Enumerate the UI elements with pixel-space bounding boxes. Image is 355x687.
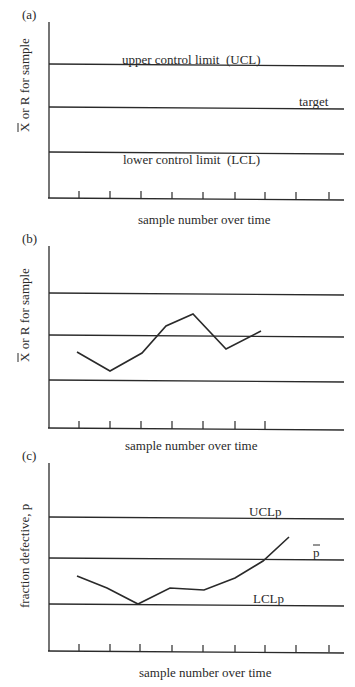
x-ticks bbox=[79, 644, 329, 652]
panel-a: (a) upper control limit (UCL) target low… bbox=[17, 7, 344, 227]
uclp-label: UCLp bbox=[249, 504, 282, 519]
lcl-label: lower control limit (LCL) bbox=[123, 152, 260, 167]
ucl-label: upper control limit (UCL) bbox=[122, 52, 261, 67]
panel-c-tag: (c) bbox=[22, 448, 36, 463]
lclp-line bbox=[49, 604, 344, 606]
y-axis-label: X or R for sample bbox=[17, 38, 32, 132]
pbar-label: p bbox=[313, 545, 320, 560]
y-axis-label: X or R for sample bbox=[17, 268, 32, 362]
lcl-line bbox=[49, 380, 344, 382]
ucl-line bbox=[49, 293, 344, 295]
x-axis-label: sample number over time bbox=[138, 212, 271, 227]
x-axis bbox=[48, 651, 344, 653]
x-ticks bbox=[79, 191, 329, 199]
lclp-label: LCLp bbox=[253, 591, 284, 606]
panel-a-tag: (a) bbox=[22, 7, 36, 22]
sample-series-line bbox=[77, 314, 261, 371]
y-axis-label: fraction defective, p bbox=[17, 504, 32, 608]
pbar-line bbox=[49, 558, 344, 560]
x-axis-label: sample number over time bbox=[139, 665, 272, 680]
svg-text:X or R for sample: X or R for sample bbox=[17, 268, 32, 362]
svg-text:fraction defective, p: fraction defective, p bbox=[17, 504, 32, 608]
panel-b-tag: (b) bbox=[22, 231, 37, 246]
target-label: target bbox=[299, 94, 329, 109]
svg-text:X or R for sample: X or R for sample bbox=[17, 38, 32, 132]
x-axis bbox=[48, 428, 344, 430]
svg-text:p: p bbox=[313, 545, 320, 560]
center-line bbox=[49, 335, 344, 337]
x-axis bbox=[48, 198, 344, 200]
control-charts: (a) upper control limit (UCL) target low… bbox=[0, 0, 355, 687]
x-axis-label: sample number over time bbox=[125, 438, 258, 453]
uclp-line bbox=[49, 517, 344, 519]
panel-b: (b) sample number over time X or R for s… bbox=[17, 231, 344, 453]
panel-c: (c) UCLp p LCLp sample number over time … bbox=[17, 448, 344, 680]
